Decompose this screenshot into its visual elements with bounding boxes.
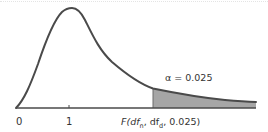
critical-value-label: F(dfn, dfd, 0.025) — [121, 116, 200, 130]
x-tick-label-0: 0 — [16, 116, 22, 127]
critical-label-suffix: , 0.025) — [163, 116, 200, 127]
f-distribution-chart: 0 1 F(dfn, dfd, 0.025) α = 0.025 — [0, 0, 268, 132]
critical-label-mid: , df — [144, 116, 160, 127]
x-tick-label-1: 1 — [66, 116, 72, 127]
alpha-annotation: α = 0.025 — [165, 72, 212, 83]
density-curve — [16, 8, 256, 108]
critical-label-prefix: F(df — [121, 116, 141, 127]
